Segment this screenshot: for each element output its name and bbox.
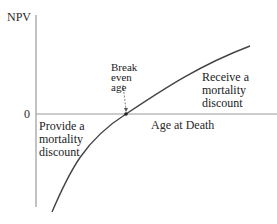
break-even-point: [124, 112, 128, 116]
upper-region-label: Receive a mortality discount: [202, 71, 249, 110]
x-axis-label: Age at Death: [151, 119, 214, 131]
lower-line-3: discount: [39, 146, 85, 159]
break-even-line-3: age: [111, 82, 137, 92]
arrow-head-icon: [124, 108, 128, 112]
zero-label: 0: [24, 108, 30, 120]
upper-line-3: discount: [202, 97, 249, 110]
break-even-label: Break even age: [111, 62, 137, 92]
y-axis-label: NPV: [7, 11, 31, 23]
lower-region-label: Provide a mortality discount: [39, 120, 85, 159]
diagram-canvas: [0, 0, 277, 224]
